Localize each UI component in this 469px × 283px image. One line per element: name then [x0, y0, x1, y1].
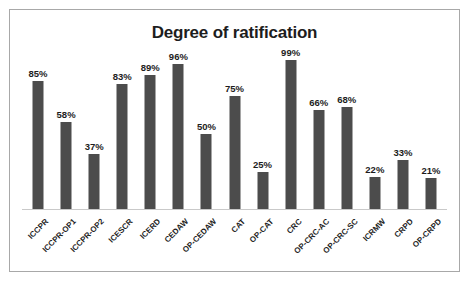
- bar-value-label: 33%: [393, 147, 412, 158]
- bar-value-label: 89%: [141, 62, 160, 73]
- bar[interactable]: [89, 154, 100, 210]
- bar-slot: 25%: [250, 58, 276, 210]
- bar-slot: 96%: [165, 58, 191, 210]
- bar-value-label: 21%: [421, 165, 440, 176]
- bar-slot: 66%: [306, 58, 332, 210]
- bar-value-label: 22%: [365, 164, 384, 175]
- bar[interactable]: [425, 178, 436, 210]
- x-axis-label: CRPD: [393, 217, 415, 239]
- x-axis-label: CEDAW: [163, 217, 190, 244]
- chart-title: Degree of ratification: [10, 23, 459, 43]
- bar[interactable]: [61, 122, 72, 210]
- x-axis-label: ICCPR: [26, 217, 50, 241]
- bar-slot: 85%: [25, 58, 51, 210]
- x-axis-label: CRC: [285, 217, 304, 236]
- bar[interactable]: [341, 107, 352, 210]
- bar-slot: 68%: [334, 58, 360, 210]
- bar-value-label: 25%: [253, 159, 272, 170]
- bar-slot: 99%: [278, 58, 304, 210]
- bar[interactable]: [145, 75, 156, 210]
- bar-slot: 89%: [137, 58, 163, 210]
- bar[interactable]: [173, 64, 184, 210]
- bar-value-label: 58%: [57, 109, 76, 120]
- bar[interactable]: [397, 160, 408, 210]
- x-axis-label: ICESCR: [107, 217, 135, 245]
- bar[interactable]: [117, 84, 128, 210]
- bar-value-label: 66%: [309, 97, 328, 108]
- category-axis-labels: ICCPRICCPR-OP1ICCPR-OP2ICESCRICERDCEDAWO…: [24, 213, 445, 273]
- bar-slot: 50%: [193, 58, 219, 210]
- bar[interactable]: [369, 177, 380, 210]
- x-axis-label: CAT: [229, 217, 247, 235]
- x-axis-label: ICERD: [139, 217, 163, 241]
- category-axis-line: [22, 209, 447, 210]
- bar-slot: 75%: [222, 58, 248, 210]
- bar[interactable]: [33, 81, 44, 210]
- bar-value-label: 96%: [169, 51, 188, 62]
- bar-slot: 21%: [418, 58, 444, 210]
- bar[interactable]: [285, 60, 296, 210]
- plot-area: 85%58%37%83%89%96%50%75%25%99%66%68%22%3…: [24, 58, 445, 210]
- x-axis-label: ICRMW: [361, 217, 387, 243]
- bar[interactable]: [313, 110, 324, 210]
- x-axis-label: OP-CRPD: [411, 217, 443, 249]
- bar-value-label: 37%: [85, 141, 104, 152]
- bar-slot: 33%: [390, 58, 416, 210]
- bar-slot: 22%: [362, 58, 388, 210]
- bar-slot: 37%: [81, 58, 107, 210]
- bar[interactable]: [201, 134, 212, 210]
- bar-slot: 83%: [109, 58, 135, 210]
- bar-value-label: 75%: [225, 83, 244, 94]
- bar-slot: 58%: [53, 58, 79, 210]
- bar-value-label: 83%: [113, 71, 132, 82]
- bar-value-label: 68%: [337, 94, 356, 105]
- x-axis-label: OP-CAT: [247, 217, 275, 245]
- bar-value-label: 99%: [281, 47, 300, 58]
- bar[interactable]: [257, 172, 268, 210]
- bar[interactable]: [229, 96, 240, 210]
- bar-value-label: 50%: [197, 121, 216, 132]
- chart-frame: Degree of ratification 85%58%37%83%89%96…: [9, 9, 460, 272]
- bar-value-label: 85%: [29, 68, 48, 79]
